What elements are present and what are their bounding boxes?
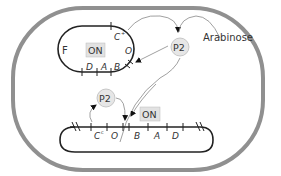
p2-upper-label: P2 [173,42,185,53]
plasmid-b-label: B [114,62,120,72]
chromosome-a-label: A [153,131,160,141]
plasmid-on-label: ON [88,45,103,56]
plasmid-a-label: A [100,62,107,72]
chromosome-o-label: O [111,131,118,141]
chromosome-b-label: B [134,131,140,141]
plasmid-c-sup: + [121,30,125,36]
plasmid-f-label: F [62,45,68,56]
p2-lower-label: P2 [99,93,111,104]
chromosome-d-label: D [172,131,179,141]
chromosome-on-label: ON [142,109,157,120]
chromosome-c-sup: c [101,129,104,135]
diagram-canvas: F ON C + O D A B P2 Arabinose P2 [0,0,281,176]
plasmid-c-label: C [114,32,121,42]
arabinose-label: Arabinose [203,32,253,43]
chromosome-c-label: C [94,131,101,141]
plasmid-d-label: D [86,62,93,72]
plasmid-o-label: O [125,46,132,56]
